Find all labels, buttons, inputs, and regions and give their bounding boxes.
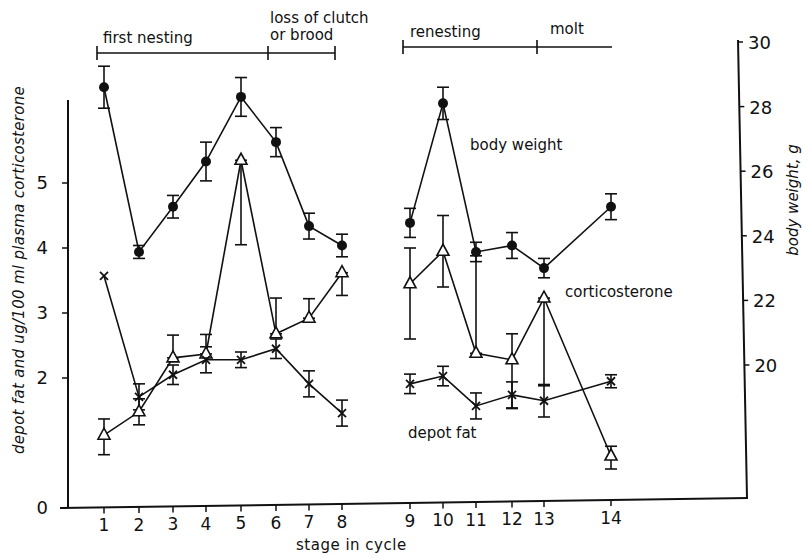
y-axis-right-label-text: body weight, g bbox=[784, 144, 802, 256]
svg-text:11: 11 bbox=[465, 510, 487, 530]
marker-body-weight bbox=[271, 137, 281, 147]
marker-corticosterone bbox=[437, 244, 449, 255]
chart-plot-area: 023452022242628301234567891011121314 bbox=[0, 0, 808, 558]
marker-body-weight bbox=[236, 92, 246, 102]
svg-text:0: 0 bbox=[37, 497, 48, 518]
svg-text:24: 24 bbox=[752, 226, 775, 247]
phase-label-loss-line2: or brood bbox=[270, 27, 333, 43]
svg-text:12: 12 bbox=[501, 509, 523, 529]
marker-corticosterone bbox=[538, 291, 550, 302]
svg-text:1: 1 bbox=[99, 515, 110, 535]
svg-text:2: 2 bbox=[134, 515, 145, 535]
marker-corticosterone bbox=[404, 277, 416, 288]
svg-text:2: 2 bbox=[37, 367, 48, 388]
marker-body-weight bbox=[201, 157, 211, 167]
svg-text:20: 20 bbox=[754, 355, 777, 376]
axis-ticks bbox=[62, 42, 749, 513]
svg-text:28: 28 bbox=[749, 97, 772, 118]
marker-body-weight bbox=[539, 263, 549, 273]
svg-text:30: 30 bbox=[748, 32, 771, 53]
svg-text:8: 8 bbox=[337, 512, 348, 532]
marker-body-weight bbox=[337, 240, 347, 250]
marker-corticosterone bbox=[235, 153, 247, 164]
svg-text:22: 22 bbox=[753, 290, 776, 311]
svg-text:7: 7 bbox=[304, 512, 315, 532]
marker-body-weight bbox=[134, 247, 144, 257]
marker-body-weight bbox=[471, 247, 481, 257]
x-axis-line bbox=[60, 498, 748, 508]
marker-corticosterone bbox=[605, 449, 617, 460]
series-label-depot-fat: depot fat bbox=[408, 424, 476, 442]
svg-text:14: 14 bbox=[600, 508, 622, 528]
marker-body-weight bbox=[507, 240, 517, 250]
svg-text:26: 26 bbox=[751, 161, 774, 182]
y-axis-left-label-text: depot fat and ug/100 ml plasma corticost… bbox=[10, 86, 28, 454]
line-depot-fat bbox=[410, 376, 611, 406]
marker-body-weight bbox=[405, 218, 415, 228]
series-label-corticosterone: corticosterone bbox=[565, 283, 673, 301]
x-axis-label: stage in cycle bbox=[296, 536, 407, 554]
svg-text:5: 5 bbox=[37, 172, 48, 193]
marker-body-weight bbox=[99, 82, 109, 92]
svg-text:9: 9 bbox=[405, 511, 416, 531]
phase-label-molt: molt bbox=[550, 21, 584, 37]
marker-corticosterone bbox=[167, 351, 179, 362]
phase-label-loss-line1: loss of clutch bbox=[270, 10, 369, 26]
marker-body-weight bbox=[438, 98, 448, 108]
y-axis-left-label: depot fat and ug/100 ml plasma corticost… bbox=[4, 20, 34, 520]
svg-text:13: 13 bbox=[533, 509, 555, 529]
svg-text:4: 4 bbox=[37, 237, 48, 258]
y-axis-right-line bbox=[738, 40, 747, 498]
marker-corticosterone bbox=[336, 266, 348, 277]
svg-text:3: 3 bbox=[168, 514, 179, 534]
phase-label-renesting: renesting bbox=[410, 24, 481, 40]
phase-label-first-nesting: first nesting bbox=[103, 30, 193, 46]
series-label-body-weight: body weight bbox=[470, 136, 562, 154]
marker-body-weight bbox=[606, 202, 616, 212]
y-axis-right-label: body weight, g bbox=[778, 40, 808, 360]
svg-text:5: 5 bbox=[236, 513, 247, 533]
marker-body-weight bbox=[168, 202, 178, 212]
svg-text:4: 4 bbox=[201, 514, 212, 534]
svg-text:10: 10 bbox=[432, 510, 454, 530]
marker-corticosterone bbox=[470, 346, 482, 357]
axes bbox=[60, 40, 748, 508]
marker-corticosterone bbox=[98, 428, 110, 439]
svg-text:6: 6 bbox=[271, 513, 282, 533]
svg-text:3: 3 bbox=[37, 302, 48, 323]
marker-body-weight bbox=[304, 221, 314, 231]
